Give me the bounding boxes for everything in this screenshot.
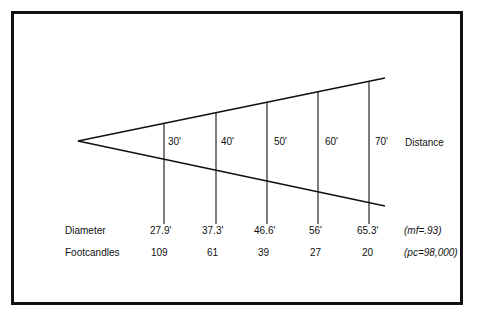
footcandles-value-30: 109 [151,247,168,259]
distance-label-50: 50' [274,136,287,148]
footcandles-note: (pc=98,000) [404,247,458,259]
distance-label-60: 60' [325,136,338,148]
diameter-note: (mf=.93) [404,225,442,237]
distance-label-30: 30' [168,136,181,148]
footcandles-value-40: 61 [207,247,218,259]
cone-top-edge [78,78,385,141]
cone-bottom-edge [78,141,385,206]
diameter-value-50: 46.6' [254,225,275,237]
footcandles-row-label: Footcandles [65,247,119,259]
footcandles-value-70: 20 [362,247,373,259]
diameter-value-70: 65.3' [357,225,378,237]
footcandles-value-50: 39 [258,247,269,259]
diameter-value-30: 27.9' [150,225,171,237]
beam-spread-cone [0,0,480,323]
distance-label-70: 70' [375,136,388,148]
distance-axis-label: Distance [405,137,444,149]
diameter-value-40: 37.3' [202,225,223,237]
diameter-value-60: 56' [309,225,322,237]
diameter-row-label: Diameter [65,225,106,237]
distance-label-40: 40' [221,136,234,148]
footcandles-value-60: 27 [310,247,321,259]
